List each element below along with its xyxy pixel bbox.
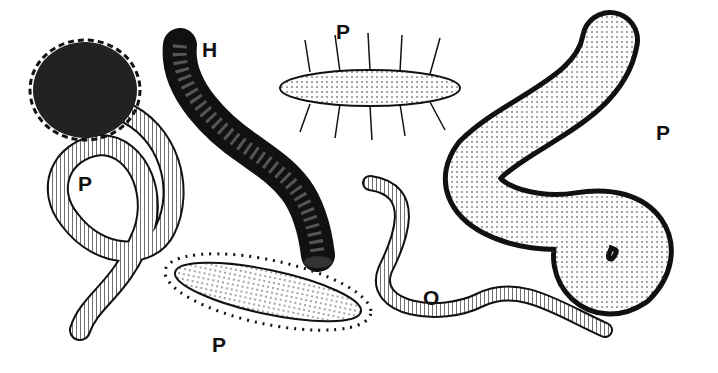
specimen-label: H [202,38,217,62]
specimen-label: P [212,333,226,357]
polychaete-spiny [159,239,378,345]
polychaete-bristled [280,33,460,140]
specimen-label: P [336,20,350,44]
specimen-label: P [78,172,92,196]
polychaete-looped [30,40,174,330]
specimen-label: P [656,121,670,145]
specimen-label: O [423,286,439,310]
worm-illustration [0,0,718,373]
polychaete-coiled [473,40,644,286]
